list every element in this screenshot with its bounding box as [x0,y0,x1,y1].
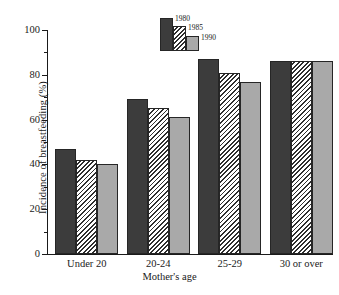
y-tick-label-100: 100 [24,25,40,36]
bar-1980-20-24 [127,99,148,254]
bar-1990-under-20 [97,164,118,254]
bar-group [55,30,118,254]
y-tick-label-80: 80 [30,70,41,81]
y-tick-minor-90 [44,52,47,53]
bar-1985-under-20 [76,160,97,254]
bar-chart: Incidence of breastfeeding (%) 1980 1985… [0,0,339,295]
bar-1985-30-or-over [291,61,312,254]
bar-1985-20-24 [148,108,169,254]
y-tick-minor-50 [44,142,47,143]
bar-1980-30-or-over [270,61,291,254]
plot-area: 020406080100 Under 2020-2425-2930 or ove… [47,30,333,254]
y-axis-title: Incidence of breastfeeding (%) [37,33,48,263]
bar-1985-25-29 [219,73,240,254]
bar-1990-30-or-over [312,61,333,254]
y-tick-minor-30 [44,187,47,188]
bar-1990-25-29 [240,82,261,254]
y-tick-0 [42,254,47,255]
x-tick-label-2: 25-29 [218,258,243,269]
x-tick-label-3: 30 or over [280,258,323,269]
bar-group [127,30,190,254]
x-axis-line [46,254,333,255]
x-tick-label-1: 20-24 [146,258,171,269]
y-tick-minor-70 [44,97,47,98]
y-tick-60 [42,120,47,121]
y-tick-minor-10 [44,232,47,233]
y-tick-100 [42,30,47,31]
y-axis-line [47,30,48,255]
y-tick-80 [42,75,47,76]
legend-label-1980: 1980 [175,15,190,23]
y-tick-40 [42,164,47,165]
y-tick-20 [42,209,47,210]
bar-1990-20-24 [169,117,190,254]
bar-1980-under-20 [55,149,76,254]
y-tick-label-0: 0 [35,249,40,260]
y-tick-label-20: 20 [30,204,41,215]
x-axis-title: Mother's age [0,271,339,282]
bar-group [198,30,261,254]
y-tick-label-40: 40 [30,159,41,170]
bar-group [270,30,333,254]
bar-1980-25-29 [198,59,219,254]
y-tick-label-60: 60 [30,114,41,125]
x-tick-label-0: Under 20 [67,258,106,269]
